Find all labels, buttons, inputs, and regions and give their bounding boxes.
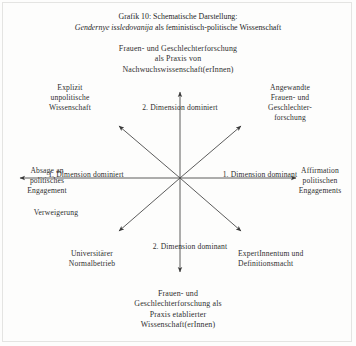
axis-label-vertical-down: 2. Dimension dominant: [128, 243, 252, 252]
spoke-down-left: [119, 178, 180, 231]
pole-label-refusal: Verweigerung: [14, 209, 98, 218]
figure-page: Grafik 10: Schematische Darstellung: Gen…: [0, 0, 356, 346]
pole-label-bottom-right: ExpertInnentum und Definitionsmacht: [238, 249, 350, 269]
spoke-down-right: [180, 178, 241, 231]
pole-label-top-right: Angewandte Frauen- und Geschlechter- for…: [240, 83, 340, 122]
axis-label-horizontal-left: 1. Dimension dominiert: [36, 171, 136, 180]
pole-label-top: Frauen- und Geschlechterforschung als Pr…: [98, 44, 258, 75]
pole-label-top-left: Explizit unpolitische Wissenschaft: [20, 83, 120, 113]
pole-label-bottom-left: Universitärer Normalbetrieb: [48, 249, 136, 269]
pole-label-bottom: Frauen- und Geschlechterforschung als Pr…: [92, 289, 264, 331]
axis-label-vertical-up: 2. Dimension dominiert: [118, 104, 242, 113]
axis-label-horizontal-right: 1. Dimension dominant: [210, 171, 310, 180]
